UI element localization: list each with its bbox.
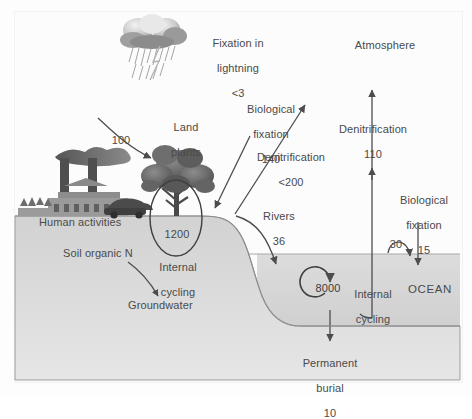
- tree-row-icon: [20, 197, 52, 206]
- burial-value: 10: [324, 407, 336, 419]
- int-cyc-ocean-line2: cycling: [356, 313, 390, 325]
- rivers-value: 36: [273, 235, 285, 247]
- label-soil-organic-n: Soil organic N: [63, 247, 163, 260]
- denit-land-value: <200: [278, 176, 303, 188]
- burial-line2: burial: [316, 382, 344, 394]
- int-cyc-land-line2: cycling: [161, 286, 195, 298]
- label-human-activities: Human activities: [39, 216, 169, 229]
- bio-fix-ocean-line2: fixation: [406, 219, 442, 231]
- label-denitrification-land: Denitrification <200: [242, 138, 340, 188]
- land-plants-line1: Land: [174, 121, 199, 133]
- rivers-line1: Rivers: [263, 210, 295, 222]
- rain-cloud-icon: [120, 14, 187, 80]
- int-cyc-ocean-line1: Internal: [354, 288, 392, 300]
- lightning-line2: lightning: [217, 62, 259, 74]
- label-ocean: OCEAN: [400, 283, 460, 296]
- label-land-plants: Land plants: [150, 108, 222, 158]
- bio-fix-ocean-line1: Biological: [400, 194, 448, 206]
- bio-fix-ocean-value: 15: [418, 244, 430, 256]
- bio-fix-land-line1: Biological: [247, 103, 295, 115]
- land-plants-line2: plants: [171, 146, 201, 158]
- denit-ocean-value: 110: [364, 148, 382, 160]
- label-denitrification-ocean: Denitrification 110: [327, 110, 419, 160]
- label-permanent-burial: Permanent burial 10: [288, 344, 372, 419]
- int-cyc-land-line1: Internal: [159, 261, 197, 273]
- denit-land-line1: Denitrification: [257, 151, 325, 163]
- label-internal-cycling-ocean-value: 8000: [310, 282, 346, 295]
- label-rivers: Rivers 36: [250, 197, 308, 247]
- label-ocean-surface-exchange: 30: [384, 238, 408, 251]
- label-internal-cycling-ocean: Internal cycling: [345, 275, 401, 325]
- lightning-bolt-icon: [150, 46, 160, 80]
- denit-ocean-line1: Denitrification: [339, 123, 407, 135]
- label-fixation-lightning: Fixation in lightning <3: [192, 24, 284, 99]
- label-internal-cycling-land-value: 1200: [158, 228, 196, 241]
- label-groundwater: Groundwater: [128, 299, 228, 312]
- burial-line1: Permanent: [303, 357, 358, 369]
- lightning-line1: Fixation in: [212, 37, 263, 49]
- label-human-input-value: 100: [105, 134, 137, 147]
- label-atmosphere: Atmosphere: [330, 39, 440, 52]
